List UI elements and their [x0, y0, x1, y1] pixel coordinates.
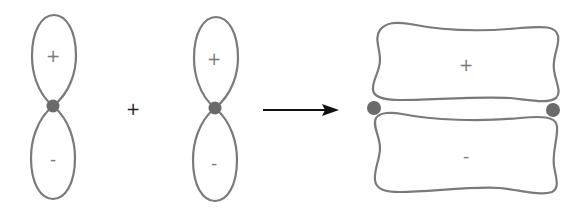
pi-bond-plus-sign: +	[459, 55, 473, 75]
pi-bond-formation-diagram: + - + + - + -	[0, 0, 587, 214]
pi-bond: + -	[367, 23, 560, 193]
p-orbital-1-plus-sign: +	[46, 46, 60, 66]
p-orbital-2-minus-sign: -	[211, 153, 217, 173]
p-orbital-1-nucleus	[47, 100, 60, 113]
p-orbital-1: + -	[31, 15, 76, 199]
right-arrow-icon	[263, 104, 339, 116]
p-orbital-2: + -	[193, 17, 238, 201]
p-orbital-2-plus-sign: +	[207, 49, 221, 69]
pi-bond-right-nucleus	[546, 103, 560, 117]
plus-operator: +	[126, 99, 140, 119]
pi-bond-minus-sign: -	[463, 146, 469, 166]
pi-bond-left-nucleus	[367, 101, 381, 115]
p-orbital-2-nucleus	[209, 102, 222, 115]
p-orbital-1-minus-sign: -	[50, 149, 56, 169]
